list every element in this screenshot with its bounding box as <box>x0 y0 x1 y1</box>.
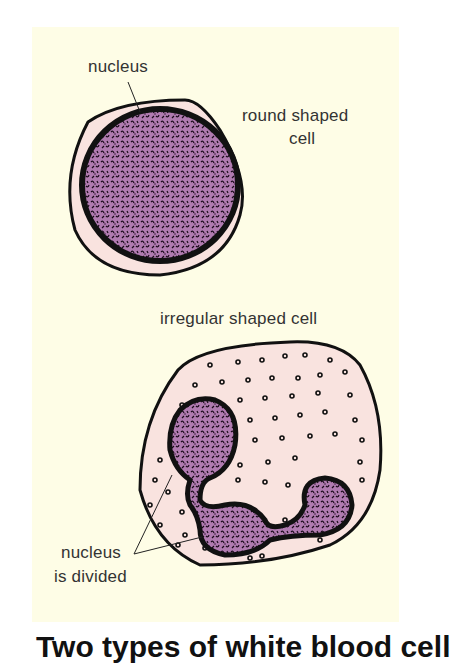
label-irregular-shaped-cell: irregular shaped cell <box>160 309 317 329</box>
label-round-shaped-cell-line2: cell <box>289 129 315 149</box>
figure-caption: Two types of white blood cell <box>36 632 450 662</box>
label-nucleus-divided-line1: nucleus <box>61 543 121 563</box>
label-nucleus-divided-line2: is divided <box>54 567 127 587</box>
round-shaped-cell <box>70 82 243 275</box>
label-round-shaped-cell-line1: round shaped <box>242 106 348 126</box>
round-cell-nucleus <box>82 109 238 261</box>
label-nucleus: nucleus <box>88 57 148 77</box>
irregular-shaped-cell <box>134 342 381 565</box>
